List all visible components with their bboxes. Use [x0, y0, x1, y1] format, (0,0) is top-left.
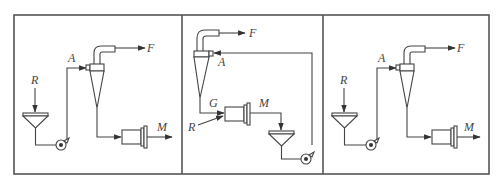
label-underflow-G: G: [209, 96, 218, 110]
mill-discharge-line: [250, 113, 281, 130]
feed-arrow: [198, 116, 223, 125]
label-product-M: M: [463, 120, 475, 134]
label-feed-R: R: [187, 120, 196, 134]
label-cyclone-feed-A: A: [217, 55, 226, 69]
label-feed-R: R: [339, 73, 348, 87]
sump-to-pump-line: [36, 128, 57, 145]
panel-1: R A F M: [23, 41, 172, 150]
cyclone-feed-line: [67, 68, 86, 139]
mill-icon: [225, 103, 250, 125]
cyclone-feed-line: [377, 68, 396, 139]
label-cyclone-feed-A: A: [377, 51, 386, 65]
pump-icon: [301, 152, 314, 164]
label-overflow-F: F: [456, 41, 465, 55]
sump-icon: [269, 131, 294, 146]
label-feed-R: R: [30, 73, 39, 87]
label-overflow-F: F: [248, 26, 257, 40]
panel-3: R A F M: [332, 41, 480, 150]
sump-to-pump-line: [282, 146, 302, 159]
pump-icon: [366, 138, 379, 150]
label-mill-discharge-M: M: [258, 96, 270, 110]
sump-to-pump-line: [345, 128, 367, 145]
mill-icon: [432, 126, 457, 148]
label-cyclone-feed-A: A: [67, 51, 76, 65]
label-product-M: M: [156, 120, 168, 134]
underflow-line: [97, 108, 121, 137]
mill-icon: [122, 126, 147, 148]
pump-icon: [56, 138, 69, 150]
flowsheet-figure: R A F M: [0, 0, 500, 185]
hydrocyclone-icon: [194, 30, 219, 98]
panel-2: F A G R M: [187, 26, 314, 164]
label-overflow-F: F: [146, 41, 155, 55]
underflow-line: [407, 108, 431, 137]
sump-icon: [23, 113, 48, 128]
sump-icon: [332, 113, 357, 128]
hydrocyclone-icon: [86, 46, 115, 108]
hydrocyclone-icon: [396, 46, 425, 108]
